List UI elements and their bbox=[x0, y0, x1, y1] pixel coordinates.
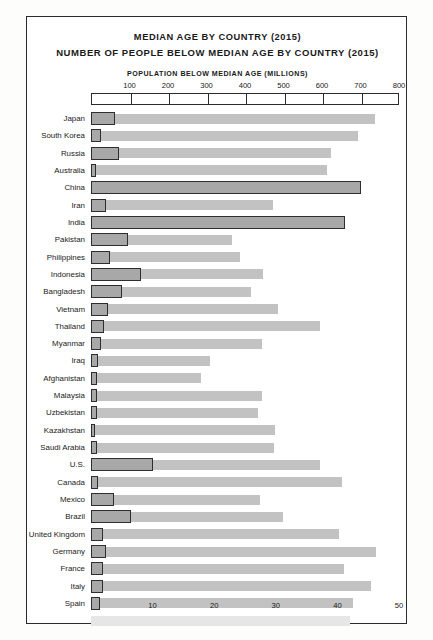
country-label: Malaysia bbox=[54, 389, 85, 402]
population-below-median-age-bar bbox=[91, 216, 345, 229]
bar-row: South Korea bbox=[91, 129, 399, 142]
median-age-bar bbox=[91, 443, 274, 453]
country-label: United Kingdom bbox=[29, 528, 85, 541]
median-age-bar bbox=[91, 356, 210, 366]
median-age-bar bbox=[91, 114, 375, 124]
median-age-bar bbox=[91, 304, 278, 314]
bar-row: Uzbekistan bbox=[91, 406, 399, 419]
top-tick-label-700: 700 bbox=[354, 81, 367, 90]
median-age-bar bbox=[91, 391, 262, 401]
country-label: Mexico bbox=[60, 493, 85, 506]
median-age-bar bbox=[91, 148, 331, 158]
top-axis-tick bbox=[362, 94, 363, 104]
median-age-bar bbox=[91, 321, 320, 331]
top-tick-label-100: 100 bbox=[123, 81, 136, 90]
top-tick-label-300: 300 bbox=[200, 81, 213, 90]
median-age-bar bbox=[91, 131, 358, 141]
bar-row: Philippines bbox=[91, 251, 399, 264]
population-below-median-age-bar bbox=[91, 493, 114, 506]
bar-row: Mexico bbox=[91, 493, 399, 506]
population-below-median-age-bar bbox=[91, 199, 106, 212]
median-age-bar bbox=[91, 425, 275, 435]
median-age-bar bbox=[91, 200, 273, 210]
population-below-median-age-bar bbox=[91, 337, 101, 350]
top-axis-tick bbox=[208, 94, 209, 104]
country-label: Spain bbox=[65, 597, 85, 610]
population-below-median-age-bar bbox=[91, 528, 103, 541]
country-label: Russia bbox=[61, 147, 85, 160]
median-age-bar bbox=[91, 495, 260, 505]
median-age-bar bbox=[91, 408, 258, 418]
country-label: Indonesia bbox=[51, 268, 85, 281]
median-age-bar bbox=[91, 477, 342, 487]
population-below-median-age-bar bbox=[91, 580, 103, 593]
bottom-tick-label-30: 30 bbox=[272, 601, 280, 610]
country-label: U.S. bbox=[70, 458, 85, 471]
population-below-median-age-bar bbox=[91, 129, 101, 142]
population-below-median-age-bar bbox=[91, 476, 98, 489]
population-below-median-age-bar bbox=[91, 233, 128, 246]
country-label: China bbox=[64, 181, 85, 194]
population-below-median-age-bar bbox=[91, 406, 97, 419]
top-tick-label-800: 800 bbox=[393, 81, 406, 90]
top-axis-scale-bar bbox=[91, 93, 399, 105]
country-label: Iran bbox=[71, 199, 85, 212]
bar-row: Canada bbox=[91, 476, 399, 489]
bar-row: Vietnam bbox=[91, 303, 399, 316]
top-tick-label-500: 500 bbox=[277, 81, 290, 90]
population-below-median-age-bar bbox=[91, 303, 108, 316]
bar-row: Malaysia bbox=[91, 389, 399, 402]
bar-row: Pakistan bbox=[91, 233, 399, 246]
country-label: Myanmar bbox=[52, 337, 85, 350]
median-age-bar bbox=[91, 616, 350, 626]
country-label: Saudi Arabia bbox=[40, 441, 85, 454]
bottom-tick-label-40: 40 bbox=[333, 601, 341, 610]
bottom-tick-label-10: 10 bbox=[148, 601, 156, 610]
population-below-median-age-bar bbox=[91, 458, 153, 471]
country-label: Kazakhstan bbox=[44, 424, 85, 437]
bar-row: Saudi Arabia bbox=[91, 441, 399, 454]
top-axis-tick bbox=[169, 94, 170, 104]
country-label: Pakistan bbox=[55, 233, 85, 246]
bar-row: Italy bbox=[91, 580, 399, 593]
country-label: Canada bbox=[57, 476, 85, 489]
bottom-tick-label-20: 20 bbox=[210, 601, 218, 610]
bar-row-faded bbox=[91, 614, 399, 627]
population-below-median-age-bar bbox=[91, 112, 115, 125]
country-label: France bbox=[60, 562, 85, 575]
bar-row: Iraq bbox=[91, 354, 399, 367]
population-below-median-age-bar bbox=[91, 562, 103, 575]
country-label: Brazil bbox=[65, 510, 85, 523]
top-tick-label-400: 400 bbox=[239, 81, 252, 90]
top-tick-label-200: 200 bbox=[162, 81, 175, 90]
bar-row: Thailand bbox=[91, 320, 399, 333]
population-below-median-age-bar bbox=[91, 268, 141, 281]
top-axis-tick bbox=[246, 94, 247, 104]
median-age-bar bbox=[91, 339, 262, 349]
population-below-median-age-bar bbox=[91, 424, 95, 437]
bar-row: Brazil bbox=[91, 510, 399, 523]
population-below-median-age-bar bbox=[91, 164, 96, 177]
top-axis-tick bbox=[323, 94, 324, 104]
bar-row: Russia bbox=[91, 147, 399, 160]
population-below-median-age-bar bbox=[91, 389, 97, 402]
bar-row: Japan bbox=[91, 112, 399, 125]
median-age-bar bbox=[91, 581, 371, 591]
median-age-bar bbox=[91, 165, 327, 175]
chart-frame: MEDIAN AGE BY COUNTRY (2015) NUMBER OF P… bbox=[26, 16, 407, 624]
country-label: Uzbekistan bbox=[46, 406, 85, 419]
country-label: Philippines bbox=[47, 251, 85, 264]
population-below-median-age-bar bbox=[91, 372, 97, 385]
country-label: Thailand bbox=[55, 320, 85, 333]
bar-row: Iran bbox=[91, 199, 399, 212]
bar-row: Myanmar bbox=[91, 337, 399, 350]
population-below-median-age-bar bbox=[91, 147, 119, 160]
top-tick-label-600: 600 bbox=[316, 81, 329, 90]
population-below-median-age-bar bbox=[91, 354, 98, 367]
bar-row: China bbox=[91, 181, 399, 194]
country-label: Germany bbox=[53, 545, 85, 558]
top-axis-tick bbox=[285, 94, 286, 104]
top-axis-tick bbox=[131, 94, 132, 104]
country-label: Italy bbox=[71, 580, 85, 593]
median-age-bar bbox=[91, 564, 344, 574]
